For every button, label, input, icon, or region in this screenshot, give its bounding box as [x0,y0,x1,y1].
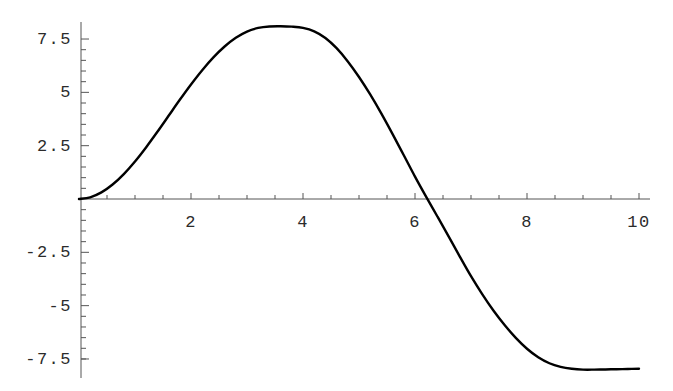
y-axis-tick-label: 2.5 [37,137,72,154]
y-axis-tick-label: -5 [49,297,72,314]
y-axis-tick-label: -2.5 [25,244,72,261]
y-axis-tick-label: 5 [60,84,72,101]
x-axis-tick-label: 4 [297,214,309,231]
x-axis-tick-label: 6 [409,214,421,231]
plot-graphics [0,0,673,391]
y-axis-tick-label: 7.5 [37,31,72,48]
x-axis-ticks [107,193,639,199]
axes-group [79,22,650,378]
y-axis-tick-label: -7.5 [25,350,72,367]
x-axis-tick-label: 10 [627,214,650,231]
x-axis-tick-label: 8 [521,214,533,231]
plot-canvas: 246810 7.552.5-2.5-5-7.5 [0,0,673,391]
x-axis-tick-label: 2 [185,214,197,231]
